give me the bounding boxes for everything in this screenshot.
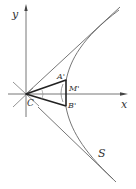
- y-axis-arrow-icon: [24, 4, 27, 11]
- point-a-prime-label: A': [57, 73, 65, 81]
- curve-s-label: S: [98, 148, 106, 159]
- y-axis-label: y: [12, 9, 18, 20]
- curve-s-upper: [66, 10, 119, 81]
- x-axis-arrow-icon: [120, 92, 128, 96]
- point-b-prime-label: B': [68, 102, 76, 110]
- angle-arc-m: [61, 84, 63, 102]
- point-c-label: C: [27, 99, 34, 108]
- point-m-prime-label: M': [69, 85, 79, 93]
- angle-arc-c: [42, 90, 43, 99]
- curve-s-lower: [66, 107, 113, 179]
- x-axis-label: x: [121, 99, 127, 110]
- diagram-canvas: [0, 0, 136, 189]
